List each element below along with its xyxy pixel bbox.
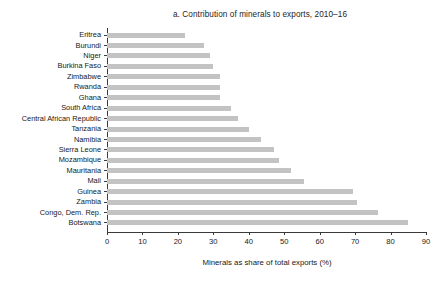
x-axis-tick-label: 40 xyxy=(237,237,261,246)
x-axis-tick xyxy=(426,232,427,235)
x-axis-tick xyxy=(355,232,356,235)
bar-row: Burundi xyxy=(107,40,426,50)
bar-row: Mauritania xyxy=(107,166,426,176)
y-axis-label: Niger xyxy=(2,51,101,60)
bar-row: Sierra Leone xyxy=(107,145,426,155)
x-axis-tick-label: 30 xyxy=(201,237,225,246)
y-axis-label: Rwanda xyxy=(2,82,101,91)
bar-row: Mali xyxy=(107,176,426,186)
y-axis-label: Botswana xyxy=(2,218,101,227)
bar xyxy=(107,210,378,215)
bar xyxy=(107,64,213,69)
bar xyxy=(107,137,261,142)
bar-row: Rwanda xyxy=(107,82,426,92)
bar xyxy=(107,33,185,38)
y-axis-label: Sierra Leone xyxy=(2,145,101,154)
plot-area: EritreaBurundiNigerBurkina FasoZimbabweR… xyxy=(107,28,426,232)
bar xyxy=(107,168,291,173)
x-axis-tick xyxy=(284,232,285,235)
x-axis-tick-label: 90 xyxy=(414,237,438,246)
bar-row: Guinea xyxy=(107,187,426,197)
bar-row: Mozambique xyxy=(107,155,426,165)
x-axis-title: Minerals as share of total exports (%) xyxy=(107,258,427,267)
bar-row: Zambia xyxy=(107,197,426,207)
bar-row: Botswana xyxy=(107,218,426,228)
y-axis-label: Guinea xyxy=(2,187,101,196)
x-axis-tick xyxy=(249,232,250,235)
bar-row: Zimbabwe xyxy=(107,72,426,82)
y-axis-label: Zambia xyxy=(2,197,101,206)
bar xyxy=(107,147,274,152)
bar xyxy=(107,43,204,48)
y-axis-label: Namibia xyxy=(2,135,101,144)
bar xyxy=(107,95,220,100)
x-axis-tick-label: 20 xyxy=(166,237,190,246)
bar-row: Niger xyxy=(107,51,426,61)
bar-chart: a. Contribution of minerals to exports, … xyxy=(0,0,440,283)
x-axis-tick-label: 60 xyxy=(308,237,332,246)
x-axis-tick-label: 80 xyxy=(379,237,403,246)
x-axis-tick-label: 10 xyxy=(130,237,154,246)
chart-title: a. Contribution of minerals to exports, … xyxy=(110,10,410,19)
x-axis-tick xyxy=(178,232,179,235)
y-axis-label: Zimbabwe xyxy=(2,72,101,81)
bar xyxy=(107,189,353,194)
y-axis-label: Ghana xyxy=(2,93,101,102)
bar-row: South Africa xyxy=(107,103,426,113)
bar xyxy=(107,85,220,90)
bar-row: Burkina Faso xyxy=(107,61,426,71)
bar-row: Namibia xyxy=(107,134,426,144)
bar xyxy=(107,179,304,184)
x-axis-tick xyxy=(391,232,392,235)
bar-row: Ghana xyxy=(107,93,426,103)
y-axis-label: Mauritania xyxy=(2,166,101,175)
bar xyxy=(107,158,279,163)
bar-row: Tanzania xyxy=(107,124,426,134)
x-axis-tick xyxy=(107,232,108,235)
y-axis-label: Central African Republic xyxy=(2,114,101,123)
bar xyxy=(107,106,231,111)
bar xyxy=(107,200,357,205)
x-axis-tick-label: 0 xyxy=(95,237,119,246)
bar xyxy=(107,220,408,225)
y-axis-label: Mozambique xyxy=(2,155,101,164)
y-axis-label: Burkina Faso xyxy=(2,61,101,70)
x-axis-tick xyxy=(142,232,143,235)
x-axis-tick xyxy=(213,232,214,235)
x-axis-line xyxy=(107,232,427,233)
y-axis-label: Tanzania xyxy=(2,124,101,133)
y-axis-label: Burundi xyxy=(2,41,101,50)
y-axis-label: South Africa xyxy=(2,103,101,112)
bar xyxy=(107,127,249,132)
y-axis-label: Eritrea xyxy=(2,30,101,39)
y-axis-label: Mali xyxy=(2,176,101,185)
bar-row: Central African Republic xyxy=(107,113,426,123)
x-axis-tick xyxy=(320,232,321,235)
y-axis-label: Congo, Dem. Rep. xyxy=(2,208,101,217)
bar xyxy=(107,53,210,58)
x-axis-tick-label: 70 xyxy=(343,237,367,246)
bar xyxy=(107,74,220,79)
bar-row: Congo, Dem. Rep. xyxy=(107,207,426,217)
bar-row: Eritrea xyxy=(107,30,426,40)
bar xyxy=(107,116,238,121)
x-axis-tick-label: 50 xyxy=(272,237,296,246)
